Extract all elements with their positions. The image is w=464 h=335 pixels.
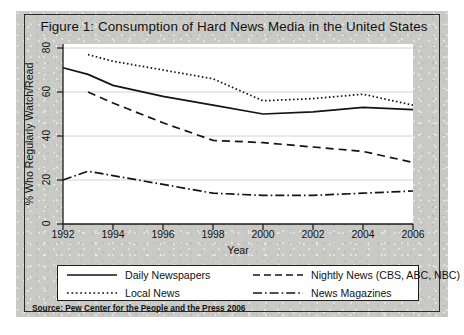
legend-item-local-news: Local News [58, 284, 244, 302]
legend-swatch-dashed-icon [251, 270, 305, 280]
x-axis-title: Year [63, 244, 413, 256]
y-tick-label-60: 60 [41, 82, 52, 102]
series-nightly-news [88, 92, 413, 162]
x-tick-label-1992: 1992 [43, 229, 83, 240]
legend-label: Daily Newspapers [125, 269, 210, 281]
legend-swatch-solid-icon [65, 270, 119, 280]
x-tick-label-2002: 2002 [293, 229, 333, 240]
chart-legend: Daily Newspapers Nightly News (CBS, ABC,… [57, 265, 419, 301]
series-line [88, 55, 413, 106]
legend-swatch-dashdot-icon [251, 288, 305, 298]
y-axis-ticks [57, 48, 63, 224]
x-tick-label-2006: 2006 [393, 229, 433, 240]
y-tick-label-80: 80 [41, 38, 52, 58]
legend-swatch-dotted-icon [65, 288, 119, 298]
legend-label: News Magazines [311, 287, 392, 299]
legend-item-nightly-news: Nightly News (CBS, ABC, NBC) [244, 266, 420, 284]
axis-lines [63, 44, 413, 224]
series-news-magazines [63, 171, 413, 195]
figure-screenshot: Figure 1: Consumption of Hard News Media… [0, 0, 464, 335]
legend-item-daily-newspapers: Daily Newspapers [58, 266, 244, 284]
x-tick-label-1996: 1996 [143, 229, 183, 240]
gridlines [63, 48, 413, 180]
y-tick-label-20: 20 [41, 170, 52, 190]
x-tick-label-2000: 2000 [243, 229, 283, 240]
source-note: Source: Pew Center for the People and th… [32, 303, 246, 313]
legend-label: Nightly News (CBS, ABC, NBC) [311, 269, 460, 281]
series-local-news [88, 55, 413, 106]
series-line [63, 171, 413, 195]
x-tick-label-2004: 2004 [343, 229, 383, 240]
x-tick-label-1998: 1998 [193, 229, 233, 240]
legend-item-news-magazines: News Magazines [244, 284, 420, 302]
series-daily-newspapers [63, 68, 413, 114]
y-axis-title: % Who Regularly Watch/Read [23, 49, 35, 219]
y-tick-label-40: 40 [41, 126, 52, 146]
legend-label: Local News [125, 287, 180, 299]
series-line [63, 68, 413, 114]
series-line [88, 92, 413, 162]
x-tick-label-1994: 1994 [93, 229, 133, 240]
